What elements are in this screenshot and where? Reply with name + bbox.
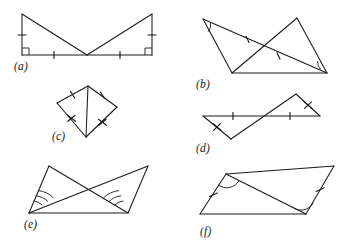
figure-b-right-side	[297, 18, 327, 73]
figure-a-right-angle-square-right	[145, 48, 152, 55]
figure-e: (e)	[24, 166, 148, 231]
figure-a: (a)	[14, 14, 156, 73]
figure-d-cross-tick-right-slant	[304, 102, 312, 109]
figure-c: (c)	[52, 86, 117, 143]
figure-a-right-hypotenuse	[87, 14, 152, 55]
figure-c-caption: (c)	[52, 130, 65, 143]
figure-a-right-angle-square-left	[22, 48, 29, 55]
figure-f-top	[226, 166, 334, 174]
figure-e-hatched-angle-right	[104, 191, 123, 205]
figures-canvas: (a) (b)	[0, 0, 346, 247]
figure-d-cross-tick-left-slant	[213, 124, 221, 131]
figure-b-caption: (b)	[196, 78, 210, 91]
figure-f: (f)	[200, 166, 334, 238]
figure-b-right-diagonal	[232, 18, 297, 73]
figure-b: (b)	[196, 18, 327, 91]
figure-f-left-side	[200, 174, 226, 214]
figure-c-tick-upper-left	[71, 91, 75, 98]
figure-b-left-side	[203, 19, 232, 73]
figure-e-hatched-angle-left	[34, 191, 53, 205]
figure-e-cross-b	[49, 166, 128, 213]
figure-c-upper-right	[88, 86, 117, 107]
figure-c-cross-tick-lower-right	[99, 119, 107, 125]
figure-a-caption: (a)	[14, 60, 28, 73]
figure-f-caption: (f)	[200, 225, 211, 238]
geometry-figure-sheet: (a) (b)	[0, 0, 346, 247]
figure-a-left-hypotenuse	[22, 14, 87, 55]
figure-f-angle-arc-bottom-right	[293, 203, 313, 210]
figure-f-angle-arc-top-left	[219, 181, 239, 188]
figure-b-left-diagonal	[203, 19, 327, 73]
figure-f-tick-right-side	[316, 188, 324, 192]
figure-e-caption: (e)	[24, 218, 37, 231]
figure-d: (d)	[196, 94, 320, 155]
figure-b-angle-arc-right	[318, 62, 321, 70]
figure-b-tick-right-diagonal	[277, 53, 280, 59]
figure-d-caption: (d)	[196, 142, 210, 155]
figure-c-vertical-diagonal	[86, 86, 88, 137]
